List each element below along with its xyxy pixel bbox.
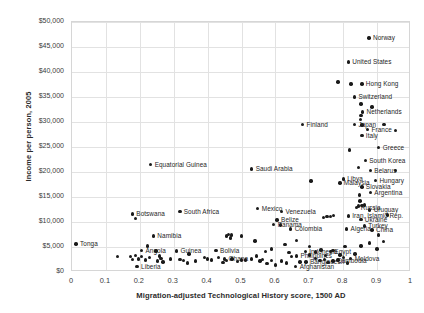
data-point[interactable] <box>279 223 282 226</box>
data-point[interactable] <box>182 259 185 262</box>
data-point[interactable] <box>332 214 335 217</box>
data-point[interactable] <box>206 257 209 260</box>
data-point[interactable] <box>363 203 366 206</box>
data-point-switzerland[interactable] <box>353 95 356 98</box>
data-point-south-korea[interactable] <box>364 159 367 162</box>
data-point[interactable] <box>253 239 256 242</box>
data-point-iran-islamic-rep[interactable] <box>347 214 350 217</box>
data-point-argentina[interactable] <box>369 191 372 194</box>
data-point[interactable] <box>368 241 371 244</box>
data-point[interactable] <box>116 255 119 258</box>
data-point[interactable] <box>131 258 134 261</box>
data-point[interactable] <box>359 102 362 105</box>
data-point-malaysia[interactable] <box>338 181 341 184</box>
data-point[interactable] <box>343 245 346 248</box>
data-point-algeria[interactable] <box>345 227 348 230</box>
data-point[interactable] <box>270 259 273 262</box>
data-point[interactable] <box>210 258 213 261</box>
data-point[interactable] <box>336 258 339 261</box>
data-point[interactable] <box>154 249 157 252</box>
data-point[interactable] <box>169 257 172 260</box>
data-point[interactable] <box>146 244 149 247</box>
data-point-afghanistan[interactable] <box>294 265 297 268</box>
data-point[interactable] <box>308 253 311 256</box>
data-point[interactable] <box>394 129 397 132</box>
data-point[interactable] <box>295 239 298 242</box>
data-point[interactable] <box>250 257 253 260</box>
data-point[interactable] <box>359 114 362 117</box>
data-point[interactable] <box>230 233 233 236</box>
data-point[interactable] <box>331 249 334 252</box>
data-point[interactable] <box>255 254 258 257</box>
data-point-namibia[interactable] <box>152 234 155 237</box>
data-point[interactable] <box>346 261 349 264</box>
data-point[interactable] <box>375 247 378 250</box>
data-point[interactable] <box>161 260 164 263</box>
data-point[interactable] <box>342 256 345 259</box>
data-point-slovakia[interactable] <box>360 185 363 188</box>
data-point[interactable] <box>319 248 322 251</box>
data-point[interactable] <box>382 123 385 126</box>
data-point[interactable] <box>186 261 189 264</box>
data-point[interactable] <box>274 263 277 266</box>
data-point[interactable] <box>360 123 363 126</box>
data-point-norway[interactable] <box>367 36 370 39</box>
data-point[interactable] <box>178 258 181 261</box>
data-point[interactable] <box>270 247 273 250</box>
data-point-philippines[interactable] <box>295 254 298 257</box>
data-point[interactable] <box>353 252 356 255</box>
data-point-guinea[interactable] <box>175 249 178 252</box>
data-point[interactable] <box>244 258 247 261</box>
data-point[interactable] <box>144 258 147 261</box>
data-point[interactable] <box>377 233 380 236</box>
data-point[interactable] <box>348 148 351 151</box>
data-point-united-states[interactable] <box>347 60 350 63</box>
data-point[interactable] <box>336 80 339 83</box>
data-point[interactable] <box>285 261 288 264</box>
data-point[interactable] <box>230 257 233 260</box>
data-point[interactable] <box>156 259 159 262</box>
data-point[interactable] <box>314 250 317 253</box>
data-point-finland[interactable] <box>301 123 304 126</box>
data-point-botswana[interactable] <box>131 212 134 215</box>
data-point[interactable] <box>240 258 243 261</box>
data-point-equatorial-guinea[interactable] <box>149 163 152 166</box>
data-point-ukraine[interactable] <box>359 218 362 221</box>
data-point-colombia[interactable] <box>289 227 292 230</box>
data-point-mexico[interactable] <box>256 207 259 210</box>
data-point[interactable] <box>140 255 143 258</box>
data-point[interactable] <box>382 240 385 243</box>
data-point[interactable] <box>264 250 267 253</box>
data-point-south-africa[interactable] <box>178 210 181 213</box>
data-point[interactable] <box>225 259 228 262</box>
data-point[interactable] <box>298 260 301 263</box>
data-point[interactable] <box>265 262 268 265</box>
data-point[interactable] <box>318 259 321 262</box>
data-point[interactable] <box>187 252 190 255</box>
data-point-saudi-arabia[interactable] <box>250 167 253 170</box>
data-point-tonga[interactable] <box>74 242 77 245</box>
data-point[interactable] <box>217 256 220 259</box>
data-point[interactable] <box>280 259 283 262</box>
data-point[interactable] <box>358 199 361 202</box>
data-point[interactable] <box>338 253 341 256</box>
data-point[interactable] <box>349 82 352 85</box>
data-point[interactable] <box>287 251 290 254</box>
data-point-japan[interactable] <box>353 123 356 126</box>
data-point-italy[interactable] <box>360 134 363 137</box>
data-point[interactable] <box>359 244 362 247</box>
data-point-bolivia[interactable] <box>214 249 217 252</box>
data-point[interactable] <box>229 236 232 239</box>
data-point[interactable] <box>290 255 293 258</box>
data-point[interactable] <box>261 258 264 261</box>
data-point[interactable] <box>134 217 137 220</box>
data-point-hong-kong[interactable] <box>360 82 363 85</box>
data-point-liberia[interactable] <box>135 265 138 268</box>
data-point[interactable] <box>137 257 140 260</box>
data-point[interactable] <box>240 234 243 237</box>
data-point[interactable] <box>283 243 286 246</box>
data-point-greece[interactable] <box>377 146 380 149</box>
data-point[interactable] <box>194 259 197 262</box>
data-point[interactable] <box>358 193 361 196</box>
data-point[interactable] <box>236 260 239 263</box>
